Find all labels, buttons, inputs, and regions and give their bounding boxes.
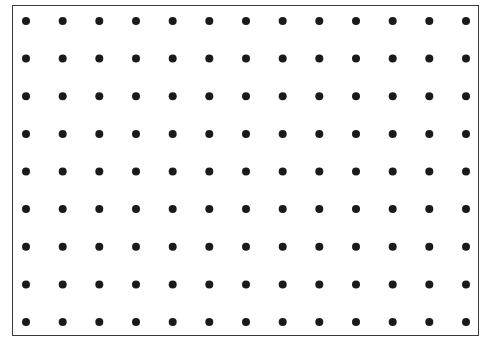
- grid-dot: [352, 55, 360, 63]
- grid-dot: [59, 243, 67, 251]
- grid-dot: [279, 55, 287, 63]
- grid-dot: [462, 318, 470, 326]
- grid-dot: [205, 55, 213, 63]
- grid-dot: [95, 130, 103, 138]
- grid-dot: [205, 243, 213, 251]
- grid-dot: [132, 168, 140, 176]
- grid-dot: [315, 92, 323, 100]
- grid-dot: [389, 55, 397, 63]
- grid-dot: [95, 168, 103, 176]
- grid-dot: [425, 243, 433, 251]
- grid-dot: [169, 205, 177, 213]
- grid-dot: [279, 17, 287, 25]
- grid-dot: [389, 17, 397, 25]
- grid-dot: [205, 205, 213, 213]
- grid-dot: [132, 130, 140, 138]
- grid-dot: [462, 280, 470, 288]
- grid-dot: [22, 243, 30, 251]
- grid-dot: [169, 130, 177, 138]
- grid-dot: [389, 205, 397, 213]
- grid-dot: [352, 130, 360, 138]
- grid-dot: [169, 55, 177, 63]
- grid-dot: [279, 168, 287, 176]
- grid-dot: [205, 92, 213, 100]
- grid-dot: [22, 280, 30, 288]
- grid-dot: [279, 130, 287, 138]
- grid-dot: [132, 17, 140, 25]
- grid-dot: [22, 130, 30, 138]
- grid-dot: [352, 280, 360, 288]
- grid-dot: [389, 168, 397, 176]
- grid-dot: [425, 318, 433, 326]
- grid-dot: [132, 55, 140, 63]
- grid-dot: [352, 17, 360, 25]
- grid-dot: [462, 168, 470, 176]
- grid-dot: [59, 92, 67, 100]
- grid-dot: [95, 205, 103, 213]
- grid-dot: [22, 318, 30, 326]
- grid-dot: [315, 243, 323, 251]
- grid-dot: [425, 92, 433, 100]
- grid-dot: [425, 168, 433, 176]
- grid-dot: [95, 92, 103, 100]
- grid-dot: [132, 280, 140, 288]
- grid-dot: [22, 55, 30, 63]
- grid-dot: [462, 55, 470, 63]
- grid-dot: [352, 243, 360, 251]
- grid-dot: [132, 92, 140, 100]
- grid-dot: [242, 168, 250, 176]
- grid-dot: [132, 318, 140, 326]
- grid-dot: [205, 17, 213, 25]
- grid-dot: [389, 318, 397, 326]
- grid-dot: [352, 205, 360, 213]
- grid-dot: [22, 205, 30, 213]
- grid-dot: [59, 130, 67, 138]
- grid-dot: [95, 55, 103, 63]
- grid-dot: [315, 205, 323, 213]
- grid-dot: [95, 318, 103, 326]
- grid-dot: [169, 318, 177, 326]
- grid-dot: [132, 243, 140, 251]
- grid-dot: [242, 17, 250, 25]
- grid-dot: [205, 130, 213, 138]
- grid-dot: [22, 92, 30, 100]
- grid-dot: [242, 92, 250, 100]
- grid-dot: [462, 92, 470, 100]
- grid-dot: [462, 130, 470, 138]
- grid-dot: [389, 280, 397, 288]
- grid-dot: [279, 205, 287, 213]
- grid-dot: [132, 205, 140, 213]
- grid-dot: [95, 17, 103, 25]
- grid-dot: [315, 168, 323, 176]
- grid-dot: [242, 205, 250, 213]
- grid-dot: [389, 130, 397, 138]
- grid-dot: [315, 17, 323, 25]
- grid-dot: [59, 205, 67, 213]
- grid-dot: [462, 205, 470, 213]
- grid-dot: [315, 130, 323, 138]
- grid-dot: [205, 168, 213, 176]
- grid-dot: [59, 55, 67, 63]
- grid-dot: [279, 318, 287, 326]
- grid-dot: [425, 205, 433, 213]
- grid-dot: [389, 243, 397, 251]
- grid-dot: [425, 130, 433, 138]
- grid-dot: [242, 318, 250, 326]
- grid-dot: [169, 168, 177, 176]
- grid-dot: [59, 318, 67, 326]
- grid-dot: [315, 318, 323, 326]
- grid-dot: [22, 168, 30, 176]
- grid-dot: [315, 280, 323, 288]
- grid-dot: [389, 92, 397, 100]
- dot-grid: [0, 0, 483, 341]
- grid-dot: [462, 243, 470, 251]
- grid-dot: [242, 55, 250, 63]
- grid-dot: [352, 168, 360, 176]
- grid-dot: [279, 280, 287, 288]
- grid-dot: [242, 280, 250, 288]
- grid-dot: [242, 130, 250, 138]
- grid-dot: [169, 17, 177, 25]
- grid-dot: [279, 92, 287, 100]
- grid-dot: [352, 318, 360, 326]
- grid-dot: [205, 318, 213, 326]
